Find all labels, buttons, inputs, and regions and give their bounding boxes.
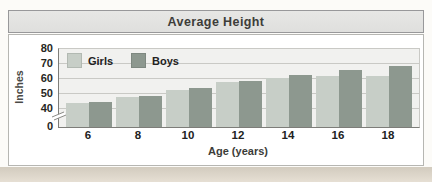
page: Average Height Inches 04050607080 GirlsB… — [0, 0, 432, 182]
y-tick-label: 80 — [41, 41, 53, 55]
legend-swatch-girls — [67, 53, 82, 68]
legend-item-girls: Girls — [67, 53, 113, 68]
x-tick-label: 18 — [363, 129, 413, 141]
bar-boys-age-18 — [389, 66, 412, 128]
chart-title: Average Height — [168, 15, 265, 29]
bar-group-age-12 — [214, 49, 264, 127]
bar-girls-age-18 — [366, 76, 389, 127]
bar-girls-age-8 — [116, 97, 139, 127]
x-axis-title: Age (years) — [58, 145, 418, 157]
bar-group-age-16 — [314, 49, 364, 127]
bar-girls-age-14 — [266, 78, 289, 128]
y-axis-title: Inches — [13, 70, 25, 103]
bar-boys-age-10 — [189, 88, 212, 127]
x-tick-label: 6 — [63, 129, 113, 141]
x-axis-ticks: 681012141618 — [58, 129, 418, 141]
bar-girls-age-10 — [166, 90, 189, 128]
y-tick-label: 70 — [41, 56, 53, 70]
bar-group-age-14 — [264, 49, 314, 127]
y-tick-label: 50 — [41, 86, 53, 100]
bar-boys-age-16 — [339, 70, 362, 127]
page-bottom-strip — [0, 167, 432, 182]
bar-group-age-18 — [364, 49, 414, 127]
legend: GirlsBoys — [67, 53, 179, 68]
x-tick-label: 14 — [263, 129, 313, 141]
y-tick-label: 60 — [41, 71, 53, 85]
bar-boys-age-12 — [239, 81, 262, 128]
bar-boys-age-8 — [139, 96, 162, 128]
x-tick-label: 16 — [313, 129, 363, 141]
bar-girls-age-6 — [66, 103, 89, 127]
x-tick-label: 10 — [163, 129, 213, 141]
bar-boys-age-14 — [289, 75, 312, 128]
legend-label: Boys — [152, 55, 179, 67]
bar-girls-age-12 — [216, 82, 239, 127]
legend-item-boys: Boys — [131, 53, 179, 68]
plot-area: GirlsBoys — [58, 48, 420, 128]
x-tick-label: 12 — [213, 129, 263, 141]
bar-boys-age-6 — [89, 102, 112, 128]
chart-card: Inches 04050607080 GirlsBoys 68101214161… — [8, 34, 424, 166]
legend-swatch-boys — [131, 53, 146, 68]
axis-break-icon — [52, 108, 66, 122]
bar-girls-age-16 — [316, 76, 339, 127]
x-tick-label: 8 — [113, 129, 163, 141]
legend-label: Girls — [88, 55, 113, 67]
chart-title-bar: Average Height — [8, 10, 424, 33]
